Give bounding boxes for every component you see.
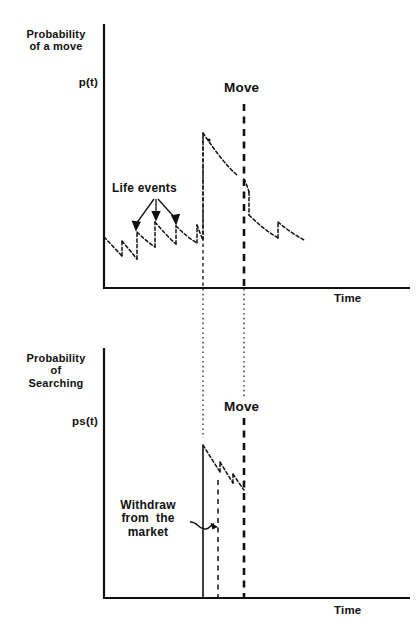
bottom-panel-axes [103,348,410,599]
bottom-panel-move-label: Move [224,399,259,414]
top-panel-y-axis-symbol: p(t) [14,76,98,89]
bottom-panel-y-axis-symbol: ps(t) [14,415,98,428]
withdraw-annotation: Withdraw from the market [107,499,189,539]
top-panel-x-axis-label: Time [334,292,361,305]
figure-container: Probability of a move p(t) Move Life eve… [0,0,419,634]
life-events-annotation: Life events [112,182,177,195]
top-panel-spike-marker [207,138,210,141]
life-events-arrows [133,199,180,230]
top-panel-axes [103,24,410,289]
bottom-panel-y-axis-label: Probability of Searching [14,352,98,389]
top-panel-curve [104,133,304,259]
bottom-panel-x-axis-label: Time [334,604,361,617]
withdraw-arrow [190,522,218,530]
figure-drawing [0,0,419,634]
top-panel-y-axis-label: Probability of a move [14,28,98,53]
bottom-panel-curve [203,445,244,490]
top-panel-move-label: Move [224,80,259,95]
